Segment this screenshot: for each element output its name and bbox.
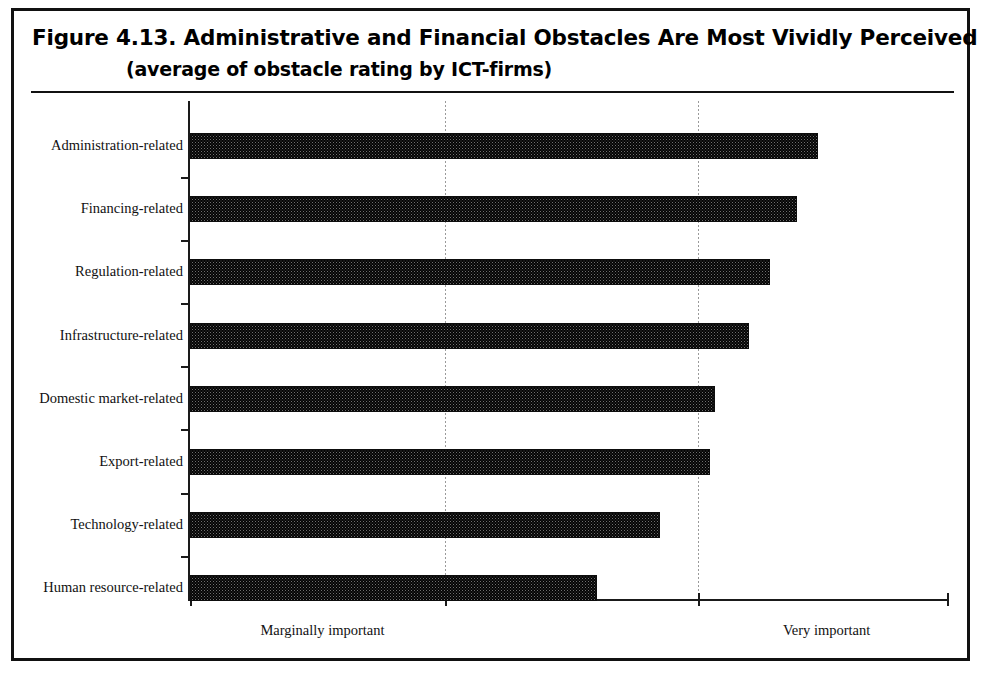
x-axis-label-high: Very important [783,622,870,639]
category-label: Export-related [99,453,183,470]
bar-row[interactable] [190,575,597,601]
category-label: Domestic market-related [39,390,183,407]
category-label: Human resource-related [43,579,183,596]
bar-row[interactable] [190,196,797,222]
bar-regulation-related[interactable] [190,259,770,285]
bar-export-related[interactable] [190,449,710,475]
x-axis-label-low: Marginally important [260,622,384,639]
category-label: Financing-related [81,200,183,217]
category-label: Technology-related [70,516,183,533]
category-label: Regulation-related [75,263,183,280]
x-axis-tick-3 [698,593,700,606]
bar-infrastructure-related[interactable] [190,323,749,349]
bar-domestic-market-related[interactable] [190,386,715,412]
bar-human-resource-related[interactable] [190,575,597,601]
bar-row[interactable] [190,323,749,349]
y-axis-tick [181,366,190,368]
category-label: Infrastructure-related [60,327,183,344]
bar-row[interactable] [190,133,818,159]
bar-row[interactable] [190,259,770,285]
x-axis-tick-4 [947,593,949,606]
gridline-2 [698,101,699,600]
y-axis-tick [181,493,190,495]
y-axis-tick [181,556,190,558]
bar-technology-related[interactable] [190,512,660,538]
y-axis-tick [181,240,190,242]
y-axis-tick [181,177,190,179]
bar-financing-related[interactable] [190,196,797,222]
y-axis-tick [181,429,190,431]
y-axis-tick [181,303,190,305]
bar-row[interactable] [190,386,715,412]
category-label: Administration-related [51,137,183,154]
bar-administration-related[interactable] [190,133,818,159]
bar-row[interactable] [190,449,710,475]
bar-row[interactable] [190,512,660,538]
